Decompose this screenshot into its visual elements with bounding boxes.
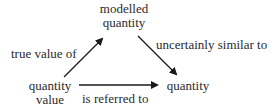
node-quantity-value: quantity value xyxy=(20,79,80,107)
node-text: value xyxy=(20,93,80,107)
node-text: modelled xyxy=(94,2,154,16)
edge-label-true-value-of: true value of xyxy=(11,47,77,61)
edge-label-is-referred-to: is referred to xyxy=(82,92,148,106)
node-text: quantity xyxy=(94,16,154,30)
node-text: quantity xyxy=(20,79,80,93)
node-modelled-quantity: modelled quantity xyxy=(94,2,154,30)
node-quantity: quantity xyxy=(160,79,216,93)
node-text: quantity xyxy=(160,79,216,93)
concept-diagram: modelled quantity quantity value quantit… xyxy=(0,0,273,109)
edge-label-uncertainly-similar-to: uncertainly similar to xyxy=(156,38,267,52)
